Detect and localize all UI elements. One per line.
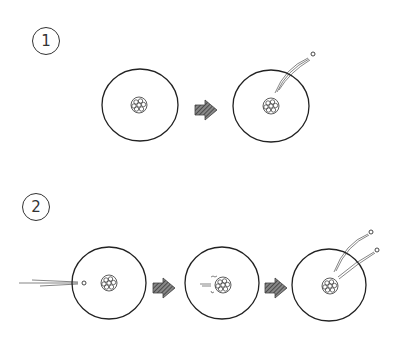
nucleus-icon xyxy=(215,277,231,293)
incoming-trail xyxy=(19,280,78,286)
arrow-icon xyxy=(153,278,175,298)
particle-icon xyxy=(311,52,315,56)
emission-trails xyxy=(334,234,375,279)
row-1 xyxy=(102,52,315,142)
nucleus-icon xyxy=(322,278,338,294)
diagram-canvas xyxy=(0,0,398,354)
row-2 xyxy=(19,230,379,321)
particle-icon xyxy=(82,281,86,285)
nucleus-icon xyxy=(101,275,117,291)
arrow-icon xyxy=(265,278,287,298)
arrow-icon xyxy=(195,100,217,120)
nucleus-icon xyxy=(263,98,279,114)
particle-icon xyxy=(375,248,379,252)
nucleus-icon xyxy=(131,97,147,113)
absorption-marks xyxy=(200,276,217,293)
particle-icon xyxy=(369,230,373,234)
